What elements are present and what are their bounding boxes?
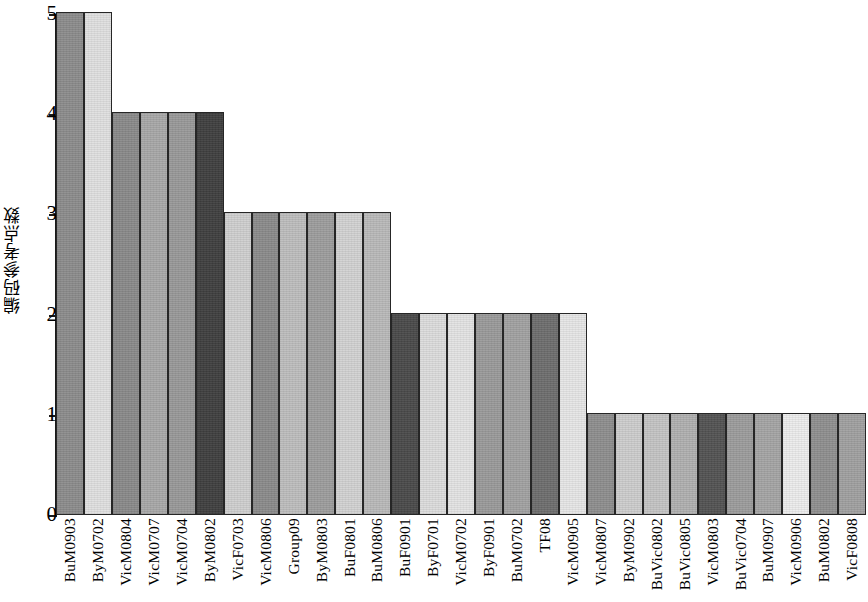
x-tick-label: VicM0806 [252,518,280,602]
x-tick-label: VicM0707 [140,518,168,602]
y-tick-label: 3 [35,203,57,224]
y-axis-title-text: 编码参考点数 [4,206,21,314]
x-tick-label: VicM0803 [698,518,726,602]
x-tick-label-text: BuM0702 [509,518,525,582]
bar [391,313,419,515]
x-tick-label: VicM0702 [447,518,475,602]
x-tick-label: TF08 [531,518,559,602]
x-tick-label: ByM0802 [196,518,224,602]
x-tick-label-text: BuF0801 [342,518,358,577]
bar [84,12,112,515]
bar [587,413,615,515]
x-tick-label-text: VicM0905 [565,518,581,586]
bar [168,112,196,515]
x-tick-label: VicF0808 [838,518,866,602]
bar [531,313,559,515]
bar [754,413,782,515]
y-tick-label: 1 [35,404,57,425]
x-tick-label: BuVic0802 [643,518,671,602]
x-tick-label-text: VicM0707 [146,518,162,586]
x-tick-label: ByM0902 [615,518,643,602]
bar [615,413,643,515]
x-tick-label-text: ByM0802 [202,518,218,582]
bar [643,413,671,515]
x-tick-label: VicM0807 [587,518,615,602]
x-tick-label-text: ByF0701 [425,518,441,577]
bar [56,12,84,515]
x-tick-label: VicM0906 [782,518,810,602]
x-tick-label-text: VicF0703 [230,518,246,581]
x-tick-label-text: BuVic0704 [733,518,749,590]
x-tick-label: BuM0702 [503,518,531,602]
x-tick-label: BuM0903 [56,518,84,602]
bar [782,413,810,515]
x-tick-label-text: BuM0907 [760,518,776,582]
x-axis-labels: BuM0903ByM0702VicM0804VicM0707VicM0704By… [56,518,866,602]
x-tick-label-text: VicM0702 [453,518,469,586]
x-tick-label: BuF0801 [335,518,363,602]
x-tick-label-text: BuVic0805 [677,518,693,590]
bar [726,413,754,515]
x-tick-label-text: TF08 [537,518,553,552]
x-tick-label-text: BuF0901 [397,518,413,577]
x-tick-label: ByM0803 [307,518,335,602]
x-tick-label: Group09 [279,518,307,602]
bar [196,112,224,515]
x-tick-label: ByF0901 [475,518,503,602]
bar [307,212,335,515]
x-tick-label-text: VicM0906 [788,518,804,586]
bar [279,212,307,515]
x-tick-label-text: VicM0803 [705,518,721,586]
y-tick-label: 2 [35,304,57,325]
bar [503,313,531,515]
x-tick-label-text: ByF0901 [481,518,497,577]
x-tick-label-text: VicM0804 [118,518,134,586]
x-tick-label-text: ByM0803 [314,518,330,582]
x-tick-label-text: ByM0902 [621,518,637,582]
x-tick-label-text: ByM0702 [90,518,106,582]
bar [252,212,280,515]
bar [363,212,391,515]
x-tick-label-text: VicM0807 [593,518,609,586]
x-tick-label: VicM0704 [168,518,196,602]
x-tick-label: BuF0901 [391,518,419,602]
x-tick-label: ByF0701 [419,518,447,602]
x-tick-label-text: BuVic0802 [649,518,665,590]
bar [447,313,475,515]
bar-chart: 编码参考点数 012345 BuM0903ByM0702VicM0804VicM… [0,0,868,602]
x-tick-label-text: VicM0704 [174,518,190,586]
bar [112,112,140,515]
bar [810,413,838,515]
bar [224,212,252,515]
x-tick-label-text: VicF0808 [844,518,860,581]
x-tick-label-text: VicM0806 [258,518,274,586]
x-tick-label-text: BuM0802 [816,518,832,582]
x-tick-label: ByM0702 [84,518,112,602]
x-tick-label-text: BuM0903 [62,518,78,582]
x-tick-label: BuM0907 [754,518,782,602]
bar [140,112,168,515]
x-tick-label: VicF0703 [224,518,252,602]
x-tick-label: BuVic0704 [726,518,754,602]
x-tick-label-text: BuM0806 [369,518,385,582]
bar [419,313,447,515]
bar [698,413,726,515]
bar [335,212,363,515]
x-tick-label-text: Group09 [286,518,302,575]
bar [670,413,698,515]
y-tick-label: 5 [35,3,57,24]
bar [559,313,587,515]
y-axis-title: 编码参考点数 [0,0,26,520]
x-tick-label: VicM0804 [112,518,140,602]
plot-area [56,14,866,515]
x-tick-label: BuM0802 [810,518,838,602]
x-tick-label: BuM0806 [363,518,391,602]
y-tick-label: 0 [35,504,57,525]
y-tick-label: 4 [35,103,57,124]
x-tick-label: VicM0905 [559,518,587,602]
bar [838,413,866,515]
bar [475,313,503,515]
x-tick-label: BuVic0805 [670,518,698,602]
